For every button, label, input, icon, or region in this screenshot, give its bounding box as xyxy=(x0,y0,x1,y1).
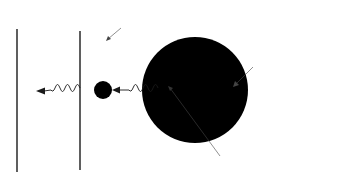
arrowhead-c-icon xyxy=(36,88,45,95)
wavy-arrow-c xyxy=(44,85,80,92)
lipid-molecule-b xyxy=(94,81,112,99)
arrowhead-a-icon xyxy=(112,87,120,94)
extraction-diagram xyxy=(0,0,337,196)
macroalgae-cell xyxy=(142,37,248,143)
co2-molecule-leader xyxy=(108,28,121,39)
